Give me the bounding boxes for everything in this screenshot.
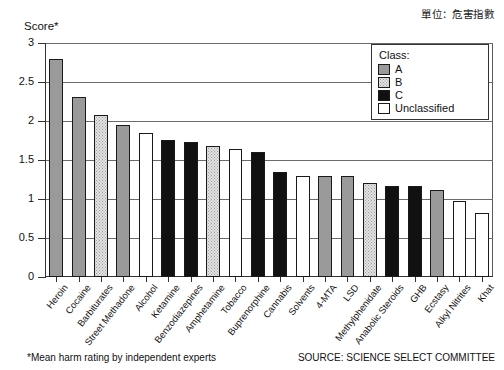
y-axis-tick-label: 2 (4, 114, 34, 126)
bar (430, 190, 444, 277)
bar (72, 97, 86, 277)
bar-slot (247, 43, 269, 277)
legend-label: C (395, 89, 403, 101)
bar-slot (224, 43, 246, 277)
bar (94, 115, 108, 277)
bar-slot (135, 43, 157, 277)
legend-swatch (378, 90, 390, 101)
legend-title: Class: (379, 49, 482, 61)
bar (206, 146, 220, 277)
bar-slot (90, 43, 112, 277)
legend-item-b: B (378, 76, 482, 88)
bar-slot (314, 43, 336, 277)
y-axis-tick-label: 0 (4, 270, 34, 282)
x-axis-tick-label: Khat (475, 282, 496, 304)
chart-canvas: 單位：危害指數 Score* 00.511.522.53 HeroinCocai… (0, 0, 504, 370)
legend-item-c: C (378, 89, 482, 101)
bar-slot (202, 43, 224, 277)
x-axis-labels: HeroinCocaineBarbituratesStreet Methadon… (45, 282, 493, 344)
bar-slot (112, 43, 134, 277)
bar (296, 176, 310, 277)
bar (385, 186, 399, 277)
bar (408, 186, 422, 277)
bar-slot (269, 43, 291, 277)
bar-slot (45, 43, 67, 277)
bar (341, 176, 355, 277)
bar (251, 152, 265, 277)
bar (475, 213, 489, 277)
source-credit: SOURCE: SCIENCE SELECT COMMITTEE (298, 352, 495, 363)
footnote: *Mean harm rating by independent experts (27, 352, 216, 363)
bar (318, 176, 332, 277)
bar (161, 140, 175, 277)
bar (184, 142, 198, 277)
legend-swatch (378, 77, 390, 88)
legend-label: A (395, 63, 402, 75)
x-axis-tick-label: GHB (407, 282, 428, 305)
x-axis-tick-label: 4-MTA (313, 282, 339, 310)
bar-slot (179, 43, 201, 277)
y-axis-tick-label: 1 (4, 192, 34, 204)
bar (49, 59, 63, 277)
bar-slot (291, 43, 313, 277)
unit-caption: 單位：危害指數 (421, 6, 494, 21)
legend-label: B (395, 76, 402, 88)
bar (453, 201, 467, 277)
bar (229, 149, 243, 277)
y-axis-tick-label: 1.5 (4, 153, 34, 165)
legend-swatch (378, 64, 390, 75)
y-axis-title: Score* (24, 20, 59, 32)
legend-item-a: A (378, 63, 482, 75)
legend: Class: ABCUnclassified (371, 44, 489, 120)
bar (139, 133, 153, 277)
legend-swatch (378, 103, 390, 114)
bar-slot (157, 43, 179, 277)
y-axis-tick-label: 2.5 (4, 75, 34, 87)
bar (273, 172, 287, 277)
bar-slot (67, 43, 89, 277)
y-axis-tick-label: 0.5 (4, 231, 34, 243)
bar-slot (336, 43, 358, 277)
x-axis-tick-label: LSD (341, 282, 361, 303)
legend-item-u: Unclassified (378, 102, 482, 114)
bar (363, 183, 377, 277)
bar (116, 125, 130, 277)
y-axis-tick-label: 3 (4, 36, 34, 48)
legend-label: Unclassified (395, 102, 454, 114)
